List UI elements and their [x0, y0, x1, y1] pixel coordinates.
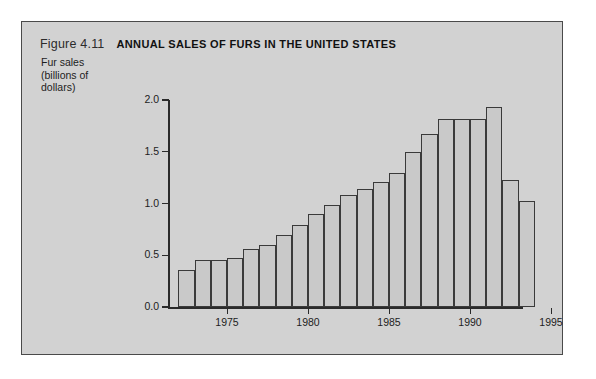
bar [178, 270, 194, 307]
bar [276, 235, 292, 307]
x-axis-tick-label: 1990 [445, 316, 495, 328]
bar [438, 119, 454, 307]
x-axis-tick-label: 1980 [283, 316, 333, 328]
bar [486, 107, 502, 307]
bar [243, 249, 259, 307]
y-axis-label-line-1: Fur sales [41, 56, 141, 69]
figure-number: Figure 4.11 [40, 37, 105, 51]
bar [373, 182, 389, 307]
y-axis-label-line-2: (billions of [41, 69, 141, 82]
bar [421, 134, 437, 307]
y-axis-tick-label: 1.0 [99, 197, 159, 209]
figure-title: ANNUAL SALES OF FURS IN THE UNITED STATE… [117, 38, 397, 50]
bar [324, 205, 340, 307]
x-axis-tick [551, 308, 552, 314]
y-axis-tick [162, 255, 169, 256]
bar [502, 180, 518, 307]
y-axis-tick-label: 0.0 [99, 300, 159, 312]
y-axis-tick-label: 2.0 [99, 93, 159, 105]
y-axis-tick-label: 0.5 [99, 248, 159, 260]
bar [211, 260, 227, 307]
figure-container: Figure 4.11ANNUAL SALES OF FURS IN THE U… [0, 0, 596, 379]
figure-caption: Figure 4.11ANNUAL SALES OF FURS IN THE U… [40, 34, 396, 52]
bar [195, 260, 211, 307]
bar-chart-plot: Fur sales (billions of dollars) 0.00.51.… [147, 56, 547, 326]
figure-panel: Figure 4.11ANNUAL SALES OF FURS IN THE U… [21, 21, 563, 355]
x-axis-tick [227, 308, 228, 314]
y-axis-label-line-3: dollars) [41, 81, 141, 94]
bar [519, 201, 535, 307]
bar [308, 214, 324, 307]
bar [470, 119, 486, 307]
bar [357, 189, 373, 307]
y-axis-tick-label: 1.5 [99, 145, 159, 157]
y-axis-label: Fur sales (billions of dollars) [41, 56, 141, 94]
x-axis-tick [389, 308, 390, 314]
x-axis-tick [470, 308, 471, 314]
y-axis-tick [162, 99, 169, 100]
bar [405, 152, 421, 307]
x-axis-tick [308, 308, 309, 314]
y-axis-tick [162, 306, 169, 307]
x-axis-tick-label: 1985 [364, 316, 414, 328]
bar [389, 173, 405, 307]
bar [259, 245, 275, 307]
x-axis-tick-label: 1975 [202, 316, 252, 328]
bar [454, 119, 470, 307]
bar [292, 225, 308, 307]
bar [340, 195, 356, 307]
y-axis-tick [162, 151, 169, 152]
y-axis-tick [162, 203, 169, 204]
x-axis-tick-label: 1995 [526, 316, 576, 328]
bar [227, 258, 243, 307]
